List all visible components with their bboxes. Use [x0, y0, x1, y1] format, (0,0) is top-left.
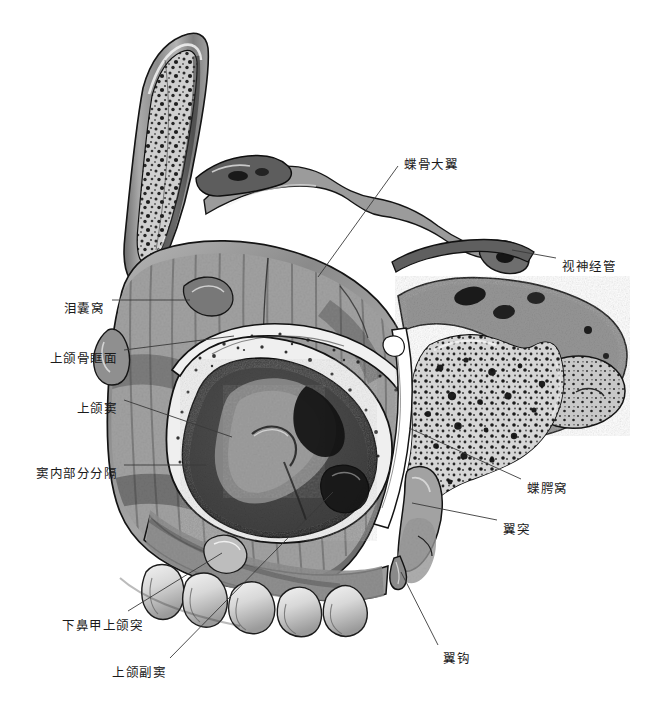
label-maxillary-sinus: 上颌窦 — [77, 403, 118, 416]
anatomical-figure: 蝶骨大翼视神经管泪囊窝上颌骨眶面上颌窦窦内部分分隔下鼻甲上颌突上颌副窦蝶腭窝翼突… — [0, 0, 660, 711]
leader-pterygoid-hamulus — [401, 572, 438, 645]
accessory-maxillary-sinus-region — [321, 465, 369, 513]
label-greater-wing-of-sphenoid: 蝶骨大翼 — [404, 159, 458, 172]
label-maxillary-process-of-inferior-concha: 下鼻甲上颌突 — [62, 620, 143, 633]
label-accessory-maxillary-sinus: 上颌副窦 — [112, 667, 166, 680]
label-pterygopalatine-fossa: 蝶腭窝 — [527, 483, 568, 496]
label-pterygoid-process: 翼突 — [503, 524, 530, 537]
label-lacrimal-sac-fossa: 泪囊窝 — [64, 303, 105, 316]
label-partial-septum-in-sinus: 窦内部分分隔 — [36, 468, 117, 481]
label-orbital-surface-of-maxilla: 上颌骨眶面 — [50, 353, 118, 366]
skull-drawing — [94, 30, 627, 637]
inferior-concha-maxillary-process — [204, 535, 247, 573]
label-optic-canal: 视神经管 — [562, 261, 616, 274]
label-pterygoid-hamulus: 翼钩 — [443, 653, 470, 666]
